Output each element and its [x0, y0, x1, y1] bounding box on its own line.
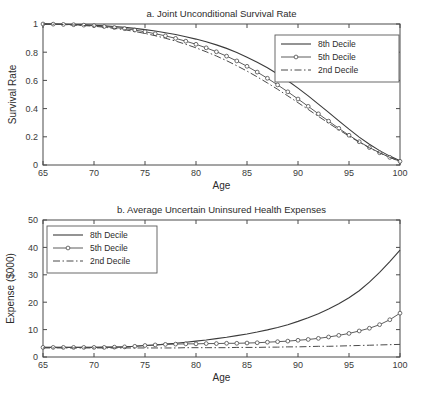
- figure-container: a. Joint Unconditional Survival Rate6570…: [0, 0, 423, 396]
- series-marker: [174, 342, 178, 346]
- legend-sample-marker: [66, 246, 70, 250]
- chart-svg-panel-b: b. Average Uncertain Uninsured Health Ex…: [0, 198, 423, 396]
- series-marker: [204, 46, 208, 50]
- y-tick-label: 0.2: [25, 132, 38, 142]
- series-marker: [245, 64, 249, 68]
- series-marker: [215, 342, 219, 346]
- x-tick-label: 100: [392, 360, 407, 370]
- y-tick-label: 0.6: [25, 76, 38, 86]
- series-marker: [153, 343, 157, 347]
- y-tick-label: 0: [33, 160, 38, 170]
- legend-label: 2nd Decile: [90, 256, 130, 266]
- series-marker: [51, 346, 55, 350]
- x-tick-label: 100: [392, 168, 407, 178]
- series-marker: [174, 36, 178, 40]
- series-marker: [92, 346, 96, 350]
- y-tick-label: 20: [28, 298, 38, 308]
- series-marker: [235, 341, 239, 345]
- series-marker: [235, 59, 239, 63]
- series-marker: [276, 340, 280, 344]
- chart-title: b. Average Uncertain Uninsured Health Ex…: [117, 204, 326, 215]
- series-marker: [164, 34, 168, 38]
- series-marker: [266, 340, 270, 344]
- x-tick-label: 75: [140, 168, 150, 178]
- legend: 8th Decile5th Decile2nd Decile: [47, 226, 157, 273]
- series-marker: [143, 344, 147, 348]
- x-tick-label: 70: [89, 168, 99, 178]
- series-marker: [164, 343, 168, 347]
- legend-label: 8th Decile: [318, 39, 356, 49]
- series-marker: [317, 112, 321, 116]
- series-marker: [378, 323, 382, 327]
- x-tick-label: 85: [242, 360, 252, 370]
- y-tick-label: 1: [33, 19, 38, 29]
- y-tick-label: 0: [33, 352, 38, 362]
- y-tick-label: 30: [28, 270, 38, 280]
- series-marker: [225, 54, 229, 58]
- x-tick-label: 90: [293, 168, 303, 178]
- series-marker: [204, 342, 208, 346]
- series-marker: [266, 76, 270, 80]
- series-marker: [327, 335, 331, 339]
- series-marker: [102, 346, 106, 350]
- series-marker: [184, 342, 188, 346]
- series-marker: [215, 50, 219, 54]
- series-marker: [296, 97, 300, 101]
- x-tick-label: 85: [242, 168, 252, 178]
- y-tick-label: 50: [28, 215, 38, 225]
- y-tick-label: 40: [28, 243, 38, 253]
- series-marker: [255, 70, 259, 74]
- series-marker: [225, 341, 229, 345]
- series-marker: [194, 42, 198, 46]
- x-tick-label: 80: [191, 168, 201, 178]
- series-marker: [41, 346, 45, 350]
- y-axis-title: Survival Rate: [7, 64, 18, 124]
- series-marker: [357, 329, 361, 333]
- series-marker: [102, 25, 106, 29]
- series-marker: [337, 333, 341, 337]
- x-tick-label: 95: [344, 168, 354, 178]
- x-tick-label: 70: [89, 360, 99, 370]
- y-tick-label: 0.4: [25, 104, 38, 114]
- x-tick-label: 90: [293, 360, 303, 370]
- chart-panel-a: a. Joint Unconditional Survival Rate6570…: [0, 0, 423, 198]
- series-marker: [72, 346, 76, 350]
- series-marker: [306, 104, 310, 108]
- series-marker: [245, 341, 249, 345]
- x-tick-label: 65: [38, 168, 48, 178]
- x-tick-label: 80: [191, 360, 201, 370]
- series-marker: [296, 338, 300, 342]
- chart-panel-b: b. Average Uncertain Uninsured Health Ex…: [0, 198, 423, 396]
- series-marker: [92, 24, 96, 28]
- series-marker: [255, 341, 259, 345]
- legend-label: 2nd Decile: [318, 65, 358, 75]
- series-marker: [317, 336, 321, 340]
- y-axis-title: Expense ($000): [5, 253, 16, 324]
- legend-label: 8th Decile: [90, 230, 128, 240]
- series-marker: [398, 311, 402, 315]
- series-marker: [184, 39, 188, 43]
- series-marker: [347, 332, 351, 336]
- series-line-1: [43, 313, 400, 347]
- legend: 8th Decile5th Decile2nd Decile: [275, 35, 399, 82]
- legend-sample-marker: [294, 55, 298, 59]
- chart-svg-panel-a: a. Joint Unconditional Survival Rate6570…: [0, 0, 423, 198]
- x-tick-label: 75: [140, 360, 150, 370]
- series-marker: [368, 326, 372, 330]
- series-marker: [113, 345, 117, 349]
- series-marker: [286, 339, 290, 343]
- x-axis-title: Age: [213, 372, 231, 383]
- x-tick-label: 95: [344, 360, 354, 370]
- series-marker: [276, 83, 280, 87]
- y-tick-label: 10: [28, 325, 38, 335]
- x-axis-title: Age: [213, 180, 231, 191]
- legend-label: 5th Decile: [318, 52, 356, 62]
- series-marker: [286, 90, 290, 94]
- series-marker: [194, 342, 198, 346]
- x-tick-label: 65: [38, 360, 48, 370]
- series-marker: [62, 346, 66, 350]
- chart-title: a. Joint Unconditional Survival Rate: [147, 8, 297, 19]
- series-marker: [306, 338, 310, 342]
- series-marker: [82, 346, 86, 350]
- y-tick-label: 0.8: [25, 48, 38, 58]
